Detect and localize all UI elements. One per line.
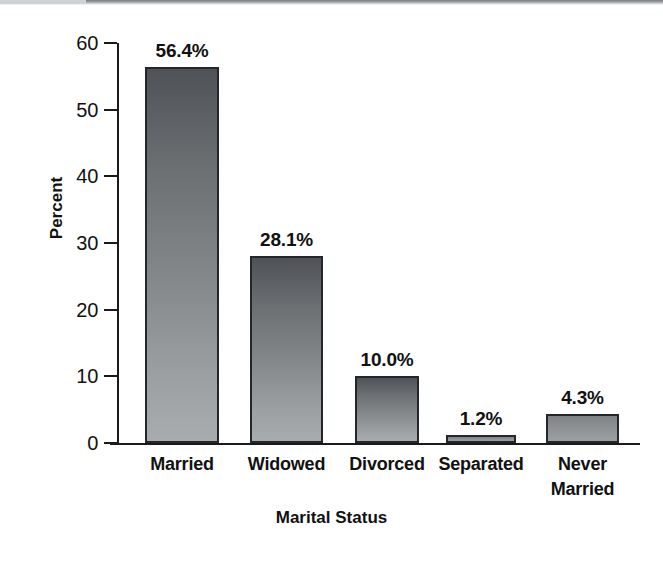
y-axis-tick xyxy=(104,242,117,244)
y-axis-tick-label: 20 xyxy=(52,298,98,322)
y-axis-tick xyxy=(104,42,117,44)
y-axis-line xyxy=(117,43,119,444)
bar[interactable] xyxy=(446,435,516,443)
x-axis-line xyxy=(110,443,640,445)
y-axis-tick-label: 0 xyxy=(52,431,98,455)
y-axis-tick-label: 10 xyxy=(52,364,98,388)
y-axis-tick-label: 60 xyxy=(52,31,98,55)
y-axis-tick-label: 50 xyxy=(52,98,98,122)
bar-value-label: 4.3% xyxy=(521,387,644,409)
y-axis-tick-label-text: 0 xyxy=(54,431,98,455)
y-axis-title: Percent xyxy=(47,153,67,263)
y-axis-tick xyxy=(104,309,117,311)
y-axis-tick-label-text: 10 xyxy=(54,364,98,388)
bar-value-label: 1.2% xyxy=(421,408,541,430)
y-axis-tick xyxy=(104,109,117,111)
x-axis-category-label-line: Married xyxy=(520,477,645,502)
y-axis-tick xyxy=(104,175,117,177)
bar[interactable] xyxy=(250,256,323,443)
bar[interactable] xyxy=(546,414,619,443)
y-axis-tick-label-text: 60 xyxy=(54,31,98,55)
x-axis-category-label: NeverMarried xyxy=(520,452,645,502)
bar-value-label: 56.4% xyxy=(120,40,244,62)
y-axis-tick-label-text: 20 xyxy=(54,298,98,322)
x-axis-category-label-line: Never xyxy=(520,452,645,477)
y-axis-tick xyxy=(104,375,117,377)
y-axis-tick-label-text: 50 xyxy=(54,98,98,122)
y-axis-tick xyxy=(104,442,117,444)
bar-chart: 0102030405060 Percent 56.4%Married28.1%W… xyxy=(0,0,663,568)
bar-value-label: 28.1% xyxy=(225,229,348,251)
bar-value-label: 10.0% xyxy=(330,349,444,371)
x-axis-title: Marital Status xyxy=(0,508,663,528)
bar[interactable] xyxy=(355,376,419,443)
bar[interactable] xyxy=(145,67,219,443)
